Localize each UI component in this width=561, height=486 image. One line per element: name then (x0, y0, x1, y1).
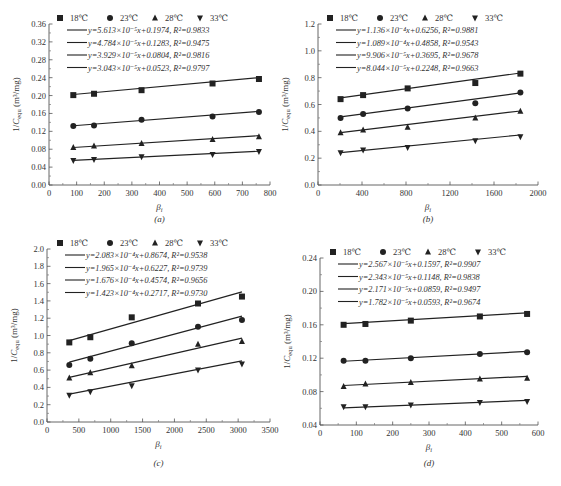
fit-line (341, 93, 521, 117)
fit-line (341, 135, 521, 153)
x-tick-label: 400 (356, 188, 369, 198)
legend-label: 23℃ (120, 238, 138, 248)
square-marker-icon (405, 85, 411, 91)
y-tick-label: 0.8 (304, 73, 315, 83)
square-marker-icon (408, 318, 414, 324)
circle-marker-icon (472, 100, 478, 106)
y-tick-label: 0.24 (31, 73, 47, 83)
square-marker-icon (256, 76, 262, 82)
x-tick-label: 0 (316, 188, 320, 198)
x-tick-label: 2000 (166, 425, 183, 435)
circle-marker-icon (362, 358, 368, 364)
fit-line (69, 316, 242, 362)
fit-equation: y=4.784×10⁻⁵x+0.1283, R²=0.9475 (87, 39, 209, 48)
square-marker-icon (57, 240, 63, 246)
y-tick-label: 0.2 (33, 400, 44, 410)
square-marker-icon (517, 71, 523, 77)
square-marker-icon (91, 91, 97, 97)
y-tick-label: 1.4 (33, 296, 44, 306)
triangle-down-marker-icon (524, 399, 530, 405)
y-axis-label: 1/Cequ (m³/mg) (9, 308, 20, 362)
triangle-down-marker-icon (517, 134, 523, 140)
x-tick-label: 400 (153, 188, 166, 198)
square-marker-icon (360, 92, 366, 98)
square-marker-icon (87, 334, 93, 340)
x-tick-label: 600 (208, 188, 221, 198)
fit-line (73, 111, 259, 125)
circle-marker-icon (517, 89, 523, 95)
circle-marker-icon (360, 111, 366, 117)
triangle-up-marker-icon (152, 15, 158, 21)
square-marker-icon (57, 15, 63, 21)
triangle-up-marker-icon (425, 249, 431, 255)
legend-label: 28℃ (165, 238, 183, 248)
fit-line (73, 78, 259, 95)
triangle-down-marker-icon (210, 152, 216, 158)
y-tick-label: 0.16 (31, 108, 46, 118)
triangle-down-marker-icon (197, 16, 203, 22)
x-tick-label: 1600 (486, 188, 503, 198)
y-tick-label: 0.12 (302, 353, 317, 363)
y-tick-label: 0.04 (31, 162, 47, 172)
x-tick-label: 500 (181, 188, 194, 198)
y-tick-label: 0.20 (31, 91, 46, 101)
triangle-down-marker-icon (87, 389, 93, 395)
square-marker-icon (524, 311, 530, 317)
y-tick-label: 1.0 (304, 46, 315, 56)
y-tick-label: 0.08 (31, 144, 46, 154)
y-tick-label: 0.6 (33, 365, 44, 375)
triangle-up-marker-icon (362, 381, 368, 387)
fit-line (69, 292, 242, 341)
fit-equation: y=2.083×10⁻⁴x+0.8674, R²=0.9538 (85, 251, 208, 260)
fit-line (69, 338, 242, 377)
fit-equation: y=1.676×10⁻⁴x+0.4574, R²=0.9656 (85, 276, 208, 285)
circle-marker-icon (338, 115, 344, 121)
y-tick-label: 0.4 (33, 382, 44, 392)
y-tick-label: 0.36 (31, 19, 46, 29)
fit-line (73, 136, 259, 148)
x-tick-label: 300 (423, 428, 436, 438)
triangle-down-marker-icon (197, 241, 203, 247)
fit-equation: y=2.343×10⁻⁵x+0.1148, R²=0.9838 (358, 273, 481, 282)
x-tick-label: 3000 (230, 425, 247, 435)
x-tick-label: 800 (264, 188, 277, 198)
y-axis-label: 1/Cequ (m³/mg) (280, 77, 291, 131)
chart-panel-c: 05001000150020002500300035000.00.20.40.6… (9, 238, 279, 468)
panel-caption: (d) (424, 458, 435, 468)
circle-marker-icon (195, 324, 201, 330)
square-marker-icon (472, 80, 478, 86)
triangle-up-marker-icon (341, 383, 347, 389)
circle-marker-icon (107, 240, 113, 246)
fit-line (344, 351, 527, 361)
panel-caption: (c) (154, 458, 164, 468)
legend-label: 23℃ (393, 247, 411, 257)
circle-marker-icon (87, 356, 93, 362)
circle-marker-icon (256, 109, 262, 115)
legend-label: 33℃ (485, 13, 503, 23)
y-axis-label: 1/Cequ (m³/mg) (11, 77, 22, 131)
x-tick-label: 2500 (198, 425, 215, 435)
circle-marker-icon (524, 349, 530, 355)
x-tick-label: 200 (98, 188, 111, 198)
figure: 01002003004005006007008000.000.040.080.1… (0, 0, 561, 486)
y-tick-label: 1.2 (304, 19, 315, 29)
fit-line (344, 376, 527, 385)
legend-label: 18℃ (70, 13, 88, 23)
square-marker-icon (362, 321, 368, 327)
square-marker-icon (330, 249, 336, 255)
x-tick-label: 200 (386, 428, 399, 438)
circle-marker-icon (380, 249, 386, 255)
fit-equation: y=9.906×10⁻⁵x+0.3695, R²=0.9678 (356, 51, 479, 60)
x-tick-label: 700 (236, 188, 249, 198)
circle-marker-icon (70, 123, 76, 129)
legend-label: 28℃ (438, 247, 456, 257)
legend-label: 33℃ (210, 238, 228, 248)
circle-marker-icon (210, 114, 216, 120)
triangle-down-marker-icon (66, 393, 72, 399)
fit-equation: y=3.929×10⁻⁵x+0.0804, R²=0.9816 (87, 51, 210, 60)
x-tick-label: 600 (532, 428, 545, 438)
circle-marker-icon (341, 358, 347, 364)
fit-equation: y=2.567×10⁻⁵x+0.1597, R²=0.9907 (358, 260, 481, 269)
circle-marker-icon (139, 117, 145, 123)
triangle-up-marker-icon (195, 341, 201, 347)
